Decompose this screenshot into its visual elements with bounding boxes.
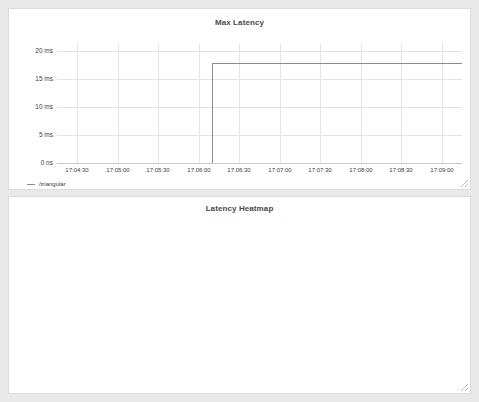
y-axis-tick-label: 15 ms [35,76,53,83]
x-axis-tick-label: 17:04:30 [65,167,88,173]
panel-title-latency-heatmap: Latency Heatmap [9,204,470,213]
y-axis-tick-label: 20 ms [35,48,53,55]
gridline-vertical [361,43,362,163]
gridline-vertical [401,43,402,163]
panel-resize-handle-icon[interactable] [461,384,468,391]
y-axis-tick-label: 5 ms [39,132,53,139]
panel-title-max-latency: Max Latency [9,18,470,27]
gridline-vertical [239,43,240,163]
gridline-vertical [442,43,443,163]
gridline-vertical [77,43,78,163]
x-axis-tick-label: 17:07:30 [308,167,331,173]
series-line-plateau [212,63,462,64]
x-axis-tick-label: 17:08:00 [349,167,372,173]
x-axis-tick-label: 17:06:00 [187,167,210,173]
gridline-vertical [199,43,200,163]
gridline-vertical [118,43,119,163]
gridline-horizontal [57,107,462,108]
gridline-horizontal [57,51,462,52]
legend-line-swatch-icon [27,184,35,185]
x-axis-tick-label: 17:08:30 [389,167,412,173]
panel-latency-heatmap[interactable]: Latency Heatmap +Inf27.96 ms22.37 ms16.7… [8,196,471,394]
series-line-riser [212,63,213,163]
legend-label-triangular: /triangular [39,181,66,187]
gridline-vertical [280,43,281,163]
y-axis-tick-label: 10 ms [35,104,53,111]
x-axis-tick-label: 17:05:00 [106,167,129,173]
gridline-vertical [158,43,159,163]
gridline-vertical [320,43,321,163]
gridline-horizontal [57,135,462,136]
dashboard-root: Max Latency 0 ns5 ms10 ms15 ms20 ms 17:0… [0,0,479,402]
max-latency-y-axis: 0 ns5 ms10 ms15 ms20 ms [17,43,53,163]
gridline-horizontal [57,163,462,164]
max-latency-x-axis: 17:04:3017:05:0017:05:3017:06:0017:06:30… [57,167,462,177]
x-axis-tick-label: 17:05:30 [146,167,169,173]
max-latency-plot-area[interactable] [57,43,462,163]
panel-max-latency[interactable]: Max Latency 0 ns5 ms10 ms15 ms20 ms 17:0… [8,8,471,190]
x-axis-tick-label: 17:09:00 [430,167,453,173]
y-axis-tick-label: 0 ns [41,160,53,167]
x-axis-tick-label: 17:07:00 [268,167,291,173]
panel-resize-handle-icon[interactable] [461,180,468,187]
x-axis-tick-label: 17:06:30 [227,167,250,173]
gridline-horizontal [57,79,462,80]
legend-max-latency[interactable]: /triangular [27,181,66,187]
